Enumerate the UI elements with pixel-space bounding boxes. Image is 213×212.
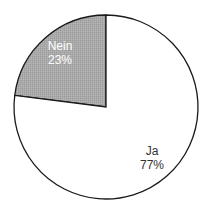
slice-label-ja-name: Ja [146,144,159,158]
slice-label-ja-value: 77% [140,158,164,172]
slice-label-nein-value: 23% [48,53,72,67]
pie-chart: Nein23%Ja77% [0,0,213,212]
pie-slices [14,15,198,199]
slice-label-nein-name: Nein [48,39,73,53]
